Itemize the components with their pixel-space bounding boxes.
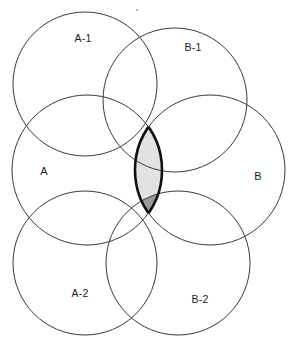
label-circle-b: B — [254, 170, 262, 182]
circle-b1-outline — [103, 28, 247, 172]
dark-lower-region — [106, 191, 250, 335]
label-circle-a: A — [40, 165, 48, 177]
circle-a2-outline — [13, 191, 157, 335]
label-circle-a1: A-1 — [74, 32, 91, 44]
label-circle-a2: A-2 — [71, 287, 88, 299]
label-circle-b2: B-2 — [191, 293, 208, 305]
circle-b2-outline — [106, 191, 250, 335]
label-circle-b1: B-1 — [184, 41, 201, 53]
venn-diagram-canvas: A B A-1 B-1 A-2 B-2 — [0, 0, 295, 346]
venn-diagram-root: A B A-1 B-1 A-2 B-2 — [0, 0, 295, 346]
dark-lower-group — [106, 191, 250, 335]
scan-speck — [136, 9, 138, 11]
